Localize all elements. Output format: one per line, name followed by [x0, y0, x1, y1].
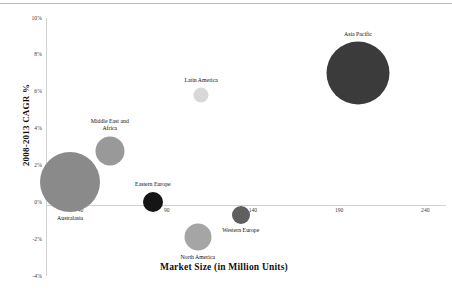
x-tick-label: 90 — [164, 207, 170, 213]
y-tick-label: -2% — [2, 236, 42, 242]
bubble-label: Western Europe — [222, 227, 259, 234]
bubble-north-america[interactable] — [184, 224, 211, 251]
y-tick-label: 8% — [2, 51, 42, 57]
bubble-label: Latin America — [185, 77, 218, 84]
x-tick-label: 240 — [421, 207, 429, 213]
bubble-middle-east-and-africa[interactable] — [95, 136, 124, 165]
bubble-latin-america[interactable] — [194, 88, 209, 103]
bubble-chart: 2008-2013 CAGR % Market Size (in Million… — [0, 0, 452, 295]
y-tick-label: 10% — [2, 15, 42, 21]
bubble-western-europe[interactable] — [232, 206, 250, 224]
y-axis-line — [46, 18, 47, 276]
x-tick-label: 190 — [335, 207, 343, 213]
y-tick-label: 6% — [2, 88, 42, 94]
y-tick-label: -4% — [2, 273, 42, 279]
y-tick-label: 4% — [2, 125, 42, 131]
bubble-label: North America — [180, 254, 215, 261]
x-axis-title: Market Size (in Million Units) — [160, 262, 288, 272]
bubble-label: Australasia — [57, 215, 83, 222]
y-tick-label: 2% — [2, 162, 42, 168]
bubble-label: Eastern Europe — [135, 181, 171, 188]
bubble-label: Middle East and Africa — [91, 118, 129, 132]
bubble-eastern-europe[interactable] — [143, 192, 163, 212]
bubble-asia-pacific[interactable] — [327, 42, 390, 105]
bubble-australasia[interactable] — [40, 152, 100, 212]
x-axis-line — [46, 205, 446, 206]
y-tick-label: 0% — [2, 199, 42, 205]
bubble-label: Asia Pacific — [344, 31, 372, 38]
x-tick-label: 140 — [249, 207, 257, 213]
